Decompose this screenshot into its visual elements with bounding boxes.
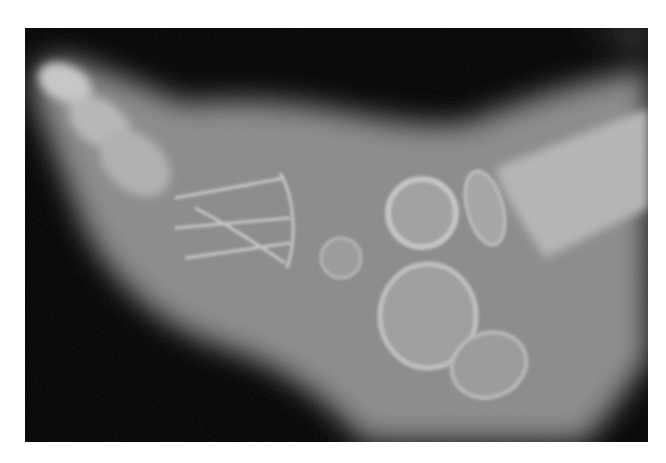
xray-foot-illustration <box>25 28 648 442</box>
film-grain <box>25 28 648 442</box>
xray-image <box>25 28 648 442</box>
